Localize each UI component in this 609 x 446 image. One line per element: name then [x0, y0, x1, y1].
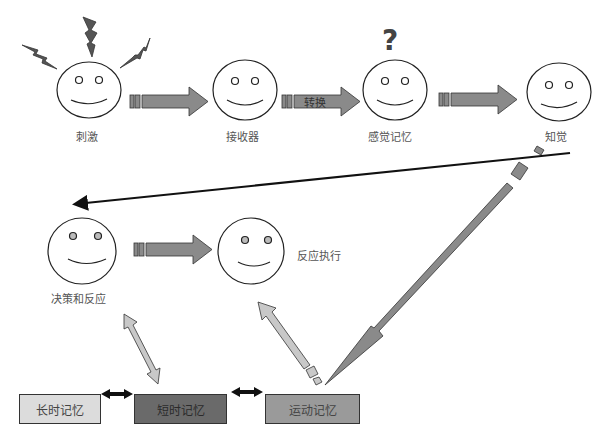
arrow-stimulus-to-receptor	[130, 87, 208, 116]
label-transform: 转换	[304, 94, 326, 110]
diagram-canvas: ?	[0, 0, 609, 446]
box-long-term-memory: 长时记忆	[19, 394, 101, 424]
arrow-decision-short-term	[124, 314, 160, 384]
face-receptor	[213, 60, 277, 120]
label-receptor: 接收器	[226, 128, 259, 144]
box-motor-memory: 运动记忆	[265, 394, 360, 424]
face-decision	[48, 218, 116, 284]
arrow-decision-to-response	[134, 235, 212, 264]
arrow-long-short	[101, 389, 133, 399]
label-decision: 决策和反应	[51, 290, 106, 306]
face-perception	[527, 63, 591, 121]
arrow-short-motor	[231, 387, 263, 397]
face-sensory-memory	[363, 60, 427, 120]
label-perception: 知觉	[545, 128, 567, 144]
face-stimulus	[57, 62, 121, 118]
box-short-term-memory: 短时记忆	[134, 394, 227, 424]
label-sensory-memory: 感觉记忆	[368, 128, 412, 144]
arrow-sensory-to-perception	[439, 85, 517, 114]
face-response-execution	[218, 218, 284, 284]
question-mark-icon: ?	[382, 24, 398, 57]
label-response-execution: 反应执行	[297, 247, 341, 263]
arrow-perception-to-motor-memory	[325, 146, 544, 385]
label-stimulus: 刺激	[76, 128, 98, 144]
lightning-bolt-icon	[22, 17, 150, 69]
arrow-motor-memory-to-response	[258, 302, 322, 385]
